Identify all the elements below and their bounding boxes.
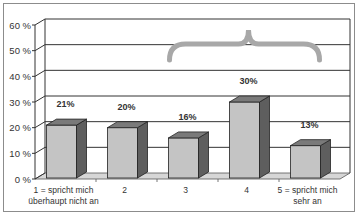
- x-category-label: 1 = spricht mich: [34, 185, 94, 195]
- bar: [230, 96, 270, 178]
- y-tick-label: 60 %: [9, 20, 31, 31]
- bar-chart: 0 %10 %20 %30 %40 %50 %60 %21%1 = sprich…: [0, 0, 358, 218]
- bar: [108, 122, 148, 178]
- x-category-label: sehr an: [293, 196, 322, 206]
- y-tick-label: 30 %: [9, 97, 31, 108]
- x-category-label: 4: [244, 185, 249, 195]
- bar: [291, 140, 331, 178]
- x-category-label: überhaupt nicht an: [28, 196, 99, 206]
- data-label: 30%: [239, 76, 257, 86]
- x-category-label: 3: [183, 185, 188, 195]
- data-label: 16%: [178, 112, 196, 122]
- bar: [169, 132, 209, 178]
- y-tick-label: 40 %: [9, 71, 31, 82]
- y-tick-label: 20 %: [9, 122, 31, 133]
- data-label: 13%: [300, 120, 318, 130]
- data-label: 20%: [117, 102, 135, 112]
- x-category-label: 2: [122, 185, 127, 195]
- x-category-label: 5 = spricht mich: [278, 185, 338, 195]
- bar: [47, 119, 87, 178]
- y-tick-label: 10 %: [9, 148, 31, 159]
- y-tick-label: 50 %: [9, 45, 31, 56]
- data-label: 21%: [56, 99, 74, 109]
- y-tick-label: 0 %: [15, 174, 32, 185]
